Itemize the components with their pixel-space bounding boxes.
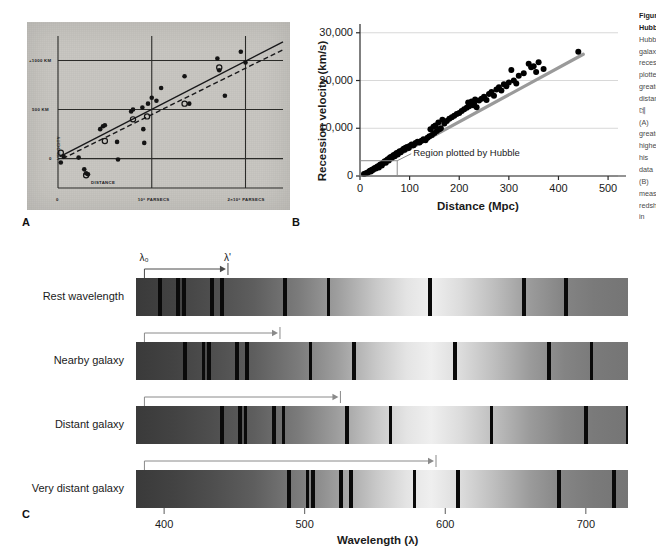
panel-c-xtick-600: 600	[429, 518, 461, 530]
caption-line-11: higher	[639, 140, 656, 152]
panel-c-x-axis-label: Wavelength (λ)	[337, 534, 418, 546]
panel-c-spectrum-band-1	[136, 342, 628, 380]
caption-line-0: Figure	[639, 10, 656, 22]
absorption-line	[306, 470, 310, 508]
panel-b-ytick-30000: 30,000	[300, 26, 353, 38]
caption-line-8: 데	[639, 105, 656, 117]
panel-a-ytick-0: 0	[49, 156, 52, 161]
panel-c: Rest wavelengthNearby galaxyDistant gala…	[0, 246, 656, 516]
panel-b-xtick-300: 300	[493, 182, 525, 194]
panel-c-spectrum-band-0	[136, 278, 628, 316]
panel-b-xtick-0: 0	[344, 182, 376, 194]
absorption-line	[428, 278, 432, 316]
panel-b-ytick-10000: 10,000	[300, 121, 353, 133]
absorption-line	[245, 342, 249, 380]
absorption-line	[557, 470, 561, 508]
panel-b-ytick-20000: 20,000	[300, 74, 353, 86]
absorption-line	[522, 278, 526, 316]
caption-line-1: Hubble	[639, 22, 656, 34]
absorption-line	[282, 406, 286, 444]
panel-c-row-label-3: Very distant galaxy	[0, 482, 124, 494]
caption-line-15: measured	[639, 188, 656, 200]
absorption-line	[207, 342, 211, 380]
lambda-zero-label: λ₀	[139, 252, 148, 263]
absorption-line	[327, 278, 331, 316]
absorption-line	[626, 406, 628, 444]
panel-c-xtick-700: 700	[570, 518, 602, 530]
panel-b-xtick-100: 100	[394, 182, 426, 194]
absorption-line	[183, 342, 187, 380]
absorption-line	[339, 470, 343, 508]
absorption-line	[182, 278, 186, 316]
absorption-line	[413, 470, 417, 508]
panel-a-y-axis-label: VELOCITY	[56, 136, 61, 160]
caption-line-16: redshift	[639, 200, 656, 212]
panel-letter-a: A	[22, 216, 30, 228]
absorption-line	[590, 342, 594, 380]
panel-c-row-label-1: Nearby galaxy	[0, 354, 124, 366]
panel-a-xtick-2e6: 2×10⁶ PARSECS	[228, 197, 265, 202]
panel-b-xtick-500: 500	[592, 182, 624, 194]
panel-c-spectrum-band-3	[136, 470, 628, 508]
absorption-line	[220, 278, 224, 316]
panel-a-plot	[27, 22, 290, 210]
absorption-line	[309, 342, 313, 380]
absorption-line	[210, 278, 214, 316]
panel-a-xtick-1e6: 10⁶ PARSECS	[138, 197, 170, 202]
absorption-line	[490, 406, 494, 444]
panel-c-xtick-500: 500	[289, 518, 321, 530]
caption-line-9: (A)	[639, 117, 656, 129]
spectrum-gradient	[136, 470, 628, 508]
absorption-line	[349, 470, 353, 508]
panel-b-annotation-region-plotted-by-hubble: Region plotted by Hubble	[413, 147, 520, 158]
panel-b: Recession velocity (km/s) Distance (Mpc)…	[300, 8, 648, 214]
panel-letter-c: C	[22, 508, 30, 520]
absorption-line	[238, 406, 242, 444]
panel-a-ytick-1000: +1000 KM	[29, 58, 51, 63]
absorption-line	[345, 406, 349, 444]
absorption-line	[272, 406, 276, 444]
absorption-line	[235, 342, 239, 380]
caption-line-2: Hubble	[639, 34, 656, 46]
panel-b-x-axis-label: Distance (Mpc)	[437, 200, 519, 212]
absorption-line	[220, 406, 224, 444]
absorption-line	[311, 470, 315, 508]
panel-c-row-label-2: Distant galaxy	[0, 418, 124, 430]
panel-c-row-label-0: Rest wavelength	[0, 290, 124, 302]
figure-caption-column: FigureHubbleHubblegalaxiesrecessionplott…	[639, 10, 656, 225]
absorption-line	[547, 342, 551, 380]
caption-line-5: plotted	[639, 69, 656, 81]
caption-line-7: distances	[639, 93, 656, 105]
spectrum-gradient	[136, 406, 628, 444]
panel-c-xtick-400: 400	[148, 518, 180, 530]
absorption-line	[564, 278, 568, 316]
caption-line-3: galaxies	[639, 46, 656, 58]
panel-a-xtick-0: 0	[56, 197, 59, 202]
caption-line-10: greater	[639, 128, 656, 140]
absorption-line	[584, 406, 588, 444]
absorption-line	[202, 342, 206, 380]
absorption-line	[176, 278, 180, 316]
absorption-line	[456, 470, 460, 508]
caption-line-12: his	[639, 152, 656, 164]
absorption-line	[283, 278, 287, 316]
absorption-line	[352, 342, 356, 380]
absorption-line	[287, 470, 291, 508]
panel-a-ytick-500: 500 KM	[32, 107, 49, 112]
absorption-line	[612, 470, 616, 508]
panel-b-y-axis-label: Recession velocity (km/s)	[316, 36, 328, 186]
panel-b-xtick-400: 400	[542, 182, 574, 194]
panel-c-spectrum-band-2	[136, 406, 628, 444]
caption-line-17: in	[639, 211, 656, 223]
panel-b-ytick-0: 0	[300, 169, 353, 181]
lambda-prime-label: λ'	[224, 252, 231, 263]
panel-letter-b: B	[292, 216, 300, 228]
caption-line-4: recession	[639, 57, 656, 69]
caption-line-18: from	[639, 223, 656, 225]
panel-a-x-axis-label: DISTANCE	[91, 180, 115, 185]
absorption-line	[158, 278, 162, 316]
panel-b-xtick-200: 200	[443, 182, 475, 194]
absorption-line	[244, 406, 248, 444]
absorption-line	[453, 342, 457, 380]
caption-line-6: greater	[639, 81, 656, 93]
